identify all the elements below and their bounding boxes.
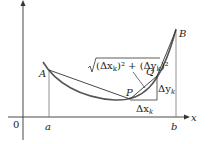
point-q-label: Q (146, 66, 154, 77)
arc-length-diagram: (Δxk)² + (Δyk)² A B P Q Δxk Δyk 0 a b x (0, 0, 209, 144)
delta-x-label: Δxk (136, 103, 153, 116)
x-axis-arrow-icon (184, 115, 190, 120)
point-p-label: P (125, 87, 133, 98)
x-axis-label: x (191, 112, 197, 123)
point-a-label: A (38, 68, 46, 79)
y-axis-arrow-icon (21, 0, 26, 6)
delta-y-label: Δyk (158, 83, 175, 96)
point-b-label: B (178, 28, 186, 39)
b-label: b (171, 121, 177, 132)
origin-label: 0 (13, 119, 19, 130)
segment-length-formula: (Δxk)² + (Δyk)² (96, 60, 169, 73)
a-label: a (45, 121, 51, 132)
leader-line (133, 72, 145, 88)
